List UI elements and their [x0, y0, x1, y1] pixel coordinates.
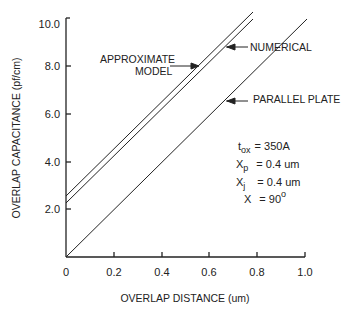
approximate-model-line	[66, 12, 253, 196]
svg-text:PARALLEL PLATE: PARALLEL PLATE	[253, 93, 340, 105]
svg-text:1.0: 1.0	[297, 266, 312, 278]
x-axis-label: OVERLAP DISTANCE (um)	[120, 292, 249, 304]
svg-text:MODEL: MODEL	[135, 65, 173, 77]
svg-text:0.8: 0.8	[249, 266, 264, 278]
svg-text:4.0: 4.0	[45, 156, 60, 168]
annotation-arrows	[170, 44, 248, 104]
svg-text:tox= 350A: tox= 350A	[238, 140, 290, 155]
chart: 10.0 8.0 6.0 4.0 2.0 0 0.2 0.4 0.6 0.8 1…	[0, 0, 347, 316]
svg-text:0.6: 0.6	[201, 266, 216, 278]
parameters: tox= 350A Xp= 0.4 um Xj= 0.4 um X= 90o	[236, 140, 300, 205]
numerical-line	[66, 19, 253, 203]
svg-text:0.4: 0.4	[154, 266, 169, 278]
svg-text:6.0: 6.0	[45, 108, 60, 120]
svg-text:0: 0	[63, 266, 69, 278]
svg-text:0.2: 0.2	[106, 266, 121, 278]
svg-text:Xp= 0.4 um: Xp= 0.4 um	[236, 158, 299, 173]
svg-text:NUMERICAL: NUMERICAL	[250, 41, 312, 53]
svg-text:APPROXIMATE: APPROXIMATE	[100, 53, 175, 65]
svg-text:8.0: 8.0	[45, 60, 60, 72]
svg-text:10.0: 10.0	[39, 18, 60, 30]
svg-text:Xj= 0.4 um: Xj= 0.4 um	[236, 176, 300, 191]
x-tick-labels: 0 0.2 0.4 0.6 0.8 1.0	[63, 266, 313, 278]
svg-text:X= 90o: X= 90o	[244, 189, 286, 205]
y-axis-label: OVERLAP CAPACITANCE (pf/cm)	[10, 57, 22, 218]
svg-text:2.0: 2.0	[45, 203, 60, 215]
y-tick-labels: 10.0 8.0 6.0 4.0 2.0	[39, 18, 60, 215]
